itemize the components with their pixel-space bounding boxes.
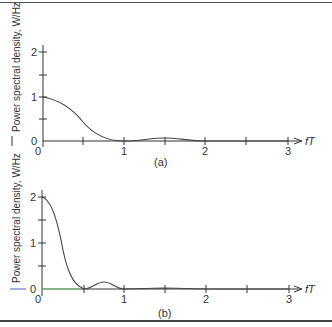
y-tick-1-b: 1 <box>30 237 36 249</box>
x-tick-1-a: 1 <box>121 145 127 157</box>
psd-curve-a <box>43 97 288 141</box>
caption-b: (b) <box>158 307 171 319</box>
x-axis-label-b: fT <box>305 283 316 295</box>
x-tick-2-a: 2 <box>202 145 208 157</box>
x-tick-2-b: 2 <box>203 293 209 305</box>
x-tick-1-b: 1 <box>121 293 127 305</box>
caption-a: (a) <box>154 156 167 168</box>
y-tick-1-a: 1 <box>31 91 37 103</box>
y-axis-label-a: Power spectral density, W/Hz <box>11 2 22 132</box>
psd-figure: Power spectral density, W/Hz fT 2 1 0 0 … <box>0 0 332 327</box>
x-axis-label-a: fT <box>305 135 316 147</box>
y-axis-label-b: Power spectral density, W/Hz <box>11 153 22 283</box>
y-tick-2-a: 2 <box>31 46 37 58</box>
psd-curve-b <box>42 197 289 289</box>
x-tick-0-b: 0 <box>35 293 41 305</box>
plot-a: Power spectral density, W/Hz fT 2 1 0 0 … <box>11 2 316 168</box>
x-tick-3-a: 3 <box>285 145 291 157</box>
x-tick-0-a: 0 <box>35 145 41 157</box>
x-tick-3-b: 3 <box>286 293 292 305</box>
plot-b: Power spectral density, W/Hz fT 2 1 0 0 … <box>10 153 316 319</box>
y-tick-2-b: 2 <box>30 191 36 203</box>
